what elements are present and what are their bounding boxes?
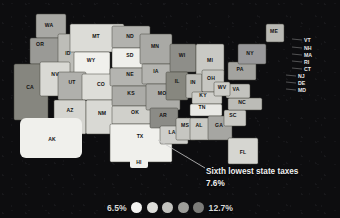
annotation-label: Sixth lowest state taxes — [206, 166, 298, 178]
map-visualization: WAORCAIDNVMTWYUTCOAZNMNDSDNEKSOKTXMNIAMO… — [0, 0, 340, 218]
state-label-fl: FL — [240, 149, 246, 155]
annotation-callout: Sixth lowest state taxes 7.6% — [206, 166, 298, 189]
state-label-nm: NM — [98, 110, 106, 116]
callout-tick-nj — [286, 75, 296, 76]
legend-swatch-4 — [178, 202, 189, 213]
state-wi[interactable] — [170, 44, 196, 72]
state-label-il: IL — [175, 78, 180, 84]
legend: 6.5% 12.7% — [0, 202, 340, 213]
callout-tick-de — [286, 82, 296, 83]
state-label-nv: NV — [51, 71, 59, 77]
state-label-mn: MN — [151, 43, 159, 49]
state-label-or: OR — [36, 41, 44, 47]
callout-label-md: MD — [298, 87, 306, 93]
callout-tick-md — [286, 89, 296, 90]
callout-tick-vt — [292, 39, 302, 40]
state-label-va: VA — [233, 86, 240, 92]
callout-tick-ma — [292, 54, 302, 55]
callout-label-ct: CT — [304, 66, 312, 72]
state-label-mt: MT — [92, 33, 100, 39]
state-label-ut: UT — [69, 79, 77, 85]
state-label-sc: SC — [229, 112, 236, 118]
callout-label-nh: NH — [304, 45, 312, 51]
state-label-me: ME — [270, 28, 278, 34]
state-label-wa: WA — [45, 22, 54, 28]
state-label-ks: KS — [127, 90, 135, 96]
state-label-oh: OH — [207, 75, 215, 81]
annotation-value: 7.6% — [206, 178, 298, 190]
state-label-hi: HI — [136, 159, 142, 165]
state-label-al: AL — [196, 122, 203, 128]
state-label-nd: ND — [126, 33, 134, 39]
callout-tick-nh — [292, 47, 302, 48]
callout-label-ri: RI — [304, 59, 310, 65]
state-label-ms: MS — [181, 122, 189, 128]
state-label-ny: NY — [246, 50, 254, 56]
state-label-ky: KY — [199, 92, 207, 98]
state-label-ca: CA — [26, 84, 34, 90]
state-label-pa: PA — [237, 66, 244, 72]
state-il[interactable] — [166, 72, 188, 100]
state-ar[interactable] — [150, 108, 178, 128]
state-or[interactable] — [30, 38, 60, 64]
state-label-nc: NC — [238, 99, 246, 105]
callout-label-ma: MA — [304, 52, 312, 58]
state-label-az: AZ — [67, 107, 74, 113]
state-label-mi: MI — [207, 57, 213, 63]
legend-swatch-3 — [162, 202, 173, 213]
legend-max-label: 12.7% — [209, 203, 233, 213]
callout-label-de: DE — [298, 80, 306, 86]
state-label-ak: AK — [48, 136, 56, 142]
state-label-wi: WI — [179, 52, 186, 58]
legend-swatch-2 — [147, 202, 158, 213]
state-label-wv: WV — [218, 84, 227, 90]
state-label-in: IN — [190, 79, 196, 85]
callout-tick-ri — [292, 61, 302, 62]
state-label-ar: AR — [159, 112, 167, 118]
state-label-id: ID — [65, 50, 71, 56]
state-label-sd: SD — [126, 52, 133, 58]
legend-min-label: 6.5% — [107, 203, 127, 213]
state-shapes-group — [14, 14, 284, 168]
state-label-ia: IA — [153, 68, 159, 74]
state-label-ga: GA — [215, 122, 223, 128]
state-label-ne: NE — [126, 71, 134, 77]
state-label-la: LA — [169, 129, 176, 135]
callout-tick-ct — [292, 68, 302, 69]
state-label-tn: TN — [199, 104, 206, 110]
state-label-tx: TX — [137, 133, 144, 139]
legend-swatch-1 — [131, 202, 142, 213]
callout-label-nj: NJ — [298, 73, 305, 79]
callout-label-vt: VT — [304, 37, 311, 43]
state-label-co: CO — [97, 81, 105, 87]
state-label-wy: WY — [87, 57, 96, 63]
state-label-mo: MO — [158, 90, 166, 96]
state-tn[interactable] — [190, 104, 222, 116]
state-label-ok: OK — [131, 109, 139, 115]
legend-swatches — [131, 202, 204, 213]
legend-swatch-5 — [193, 202, 204, 213]
state-mn[interactable] — [140, 34, 172, 64]
